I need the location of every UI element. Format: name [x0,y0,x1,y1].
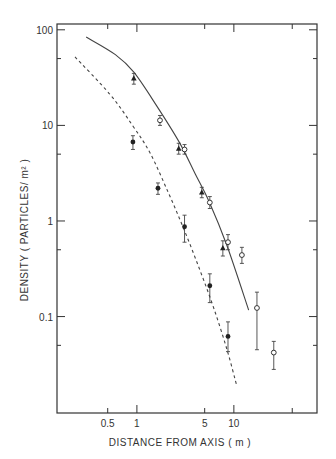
y-tick-label: 1 [47,216,53,227]
y-tick-label: 100 [36,25,53,36]
filled-circle-marker [131,140,136,145]
filled-triangle-point [220,241,226,256]
open-circle-point [255,292,260,350]
filled-triangle-point [199,187,205,197]
y-tick-label: 10 [42,120,54,131]
solid-curve [86,37,248,310]
y-axis-label: DENSITY ( PARTICLES/ m² ) [19,159,30,302]
y-axis-ticks: 1001010.1 [36,25,317,346]
fit-curves [75,37,249,385]
open-circle-point [271,341,276,369]
x-tick-label: 5 [202,418,208,429]
x-tick-label: 1 [134,418,140,429]
filled-circle-point [131,136,136,150]
data-points [131,73,277,369]
filled-circle-marker [226,334,231,339]
x-tick-label: 10 [228,418,240,429]
filled-circle-point [182,215,187,242]
open-circle-point [226,235,231,250]
open-circle-marker [255,306,260,311]
density-distance-chart: 0.51510 1001010.1 DISTANCE FROM AXIS ( m… [0,0,336,459]
x-axis-ticks: 0.51510 [101,24,292,429]
open-circle-marker [207,200,212,205]
plot-frame [57,24,317,413]
open-circle-marker [182,147,187,152]
y-tick-label: 0.1 [39,312,53,323]
triangle-marker [220,245,226,250]
filled-circle-point [156,183,161,194]
triangle-marker [176,146,182,151]
filled-circle-marker [156,186,161,191]
filled-circle-point [207,274,212,303]
x-axis-label: DISTANCE FROM AXIS ( m ) [109,437,251,448]
open-circle-point [182,145,187,155]
open-circle-marker [239,253,244,258]
dashed-curve [75,57,237,386]
open-circle-point [239,247,244,263]
x-tick-label: 0.5 [101,418,115,429]
open-circle-marker [226,240,231,245]
filled-circle-marker [182,224,187,229]
open-circle-marker [158,118,163,123]
open-circle-marker [271,350,276,355]
open-circle-point [158,115,163,125]
triangle-marker [131,75,137,80]
filled-circle-marker [207,283,212,288]
